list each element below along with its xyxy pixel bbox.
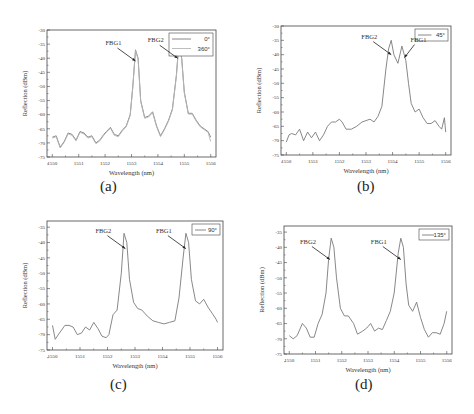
y-axis-label: Reflection (dBm) xyxy=(255,68,263,114)
x-tick-label: 1553 xyxy=(127,161,138,166)
peak-annotation: FBG2 xyxy=(148,36,164,43)
legend-entry: 135° xyxy=(434,232,447,238)
y-tick-label: -60 xyxy=(38,112,45,117)
x-tick-label: 1551 xyxy=(75,354,86,359)
x-axis-label: Wavelength (nm) xyxy=(112,362,157,370)
subfigure-label-b: (b) xyxy=(357,178,375,195)
x-tick-label: 1552 xyxy=(334,159,345,164)
y-tick-label: -75 xyxy=(38,155,45,160)
x-tick-label: 1552 xyxy=(337,358,348,363)
chart-panel-c: -35-40-45-50-55-60-65-70-751550155115521… xyxy=(17,215,229,380)
y-tick-label: -60 xyxy=(275,306,282,311)
chart-panel-b: -30-35-40-45-50-55-60-65-70-751550155115… xyxy=(251,20,457,185)
peak-annotation: FBG1 xyxy=(106,39,122,46)
chart-c: -35-40-45-50-55-60-65-70-751550155115521… xyxy=(17,215,229,376)
x-tick-label: 1554 xyxy=(153,161,164,166)
y-tick-label: -70 xyxy=(38,141,45,146)
x-tick-label: 1553 xyxy=(363,358,374,363)
x-tick-label: 1555 xyxy=(414,159,425,164)
y-tick-label: -30 xyxy=(38,28,45,33)
y-tick-label: -35 xyxy=(275,230,282,235)
x-tick-label: 1554 xyxy=(388,159,399,164)
series-line-135° xyxy=(289,238,446,339)
y-tick-label: -40 xyxy=(38,56,45,61)
y-tick-label: -60 xyxy=(272,110,279,115)
y-tick-label: -45 xyxy=(38,70,45,75)
x-tick-label: 1550 xyxy=(284,358,295,363)
legend: 90° xyxy=(192,224,220,235)
plot-frame xyxy=(281,26,451,155)
y-tick-label: -50 xyxy=(272,81,279,86)
x-tick-label: 1554 xyxy=(158,354,169,359)
y-axis-label: Reflection (dBm) xyxy=(21,71,29,117)
y-tick-label: -40 xyxy=(272,52,279,57)
y-tick-label: -65 xyxy=(38,127,45,132)
legend-entry: 90° xyxy=(208,227,218,233)
y-tick-label: -65 xyxy=(275,321,282,326)
x-tick-label: 1552 xyxy=(103,354,114,359)
x-tick-label: 1550 xyxy=(281,159,292,164)
y-tick-label: -40 xyxy=(38,240,45,245)
y-tick-label: -70 xyxy=(275,337,282,342)
x-tick-label: 1555 xyxy=(179,161,190,166)
y-tick-label: -65 xyxy=(272,124,279,129)
x-tick-label: 1556 xyxy=(442,358,453,363)
series-line-90° xyxy=(53,233,218,339)
y-tick-label: -30 xyxy=(272,24,279,29)
x-tick-label: 1556 xyxy=(441,159,452,164)
x-tick-label: 1550 xyxy=(47,161,58,166)
y-tick-label: -50 xyxy=(38,84,45,89)
peak-annotation: FBG2 xyxy=(361,33,377,40)
y-tick-label: -70 xyxy=(38,332,45,337)
peak-annotation: FBG1 xyxy=(156,227,172,234)
y-axis-label: Reflection (dBm) xyxy=(258,267,266,313)
peak-annotation: FBG2 xyxy=(95,227,111,234)
y-tick-label: -75 xyxy=(272,153,279,158)
chart-a: -30-35-40-45-50-55-60-65-70-751550155115… xyxy=(17,24,222,183)
y-axis-label: Reflection (dBm) xyxy=(21,263,29,309)
x-tick-label: 1556 xyxy=(213,354,224,359)
y-tick-label: -50 xyxy=(38,271,45,276)
y-tick-label: -65 xyxy=(38,317,45,322)
legend: 0°360° xyxy=(169,33,213,56)
peak-annotation: FBG1 xyxy=(371,238,387,245)
x-tick-label: 1551 xyxy=(74,161,85,166)
y-tick-label: -75 xyxy=(38,348,45,353)
x-tick-label: 1553 xyxy=(361,159,372,164)
peak-annotation: FBG1 xyxy=(411,36,427,43)
subfigure-label-d: (d) xyxy=(355,376,373,393)
x-tick-label: 1552 xyxy=(100,161,111,166)
chart-d: -35-40-45-50-55-60-65-70-751550155115521… xyxy=(254,220,458,380)
y-tick-label: -40 xyxy=(275,245,282,250)
y-tick-label: -55 xyxy=(272,95,279,100)
subfigure-label-a: (a) xyxy=(100,178,117,195)
y-tick-label: -35 xyxy=(38,42,45,47)
y-tick-label: -70 xyxy=(272,138,279,143)
peak-annotation: FBG2 xyxy=(300,238,316,245)
chart-panel-a: -30-35-40-45-50-55-60-65-70-751550155115… xyxy=(17,24,222,187)
y-tick-label: -75 xyxy=(275,352,282,357)
y-tick-label: -35 xyxy=(272,38,279,43)
subfigure-label-c: (c) xyxy=(110,376,127,393)
chart-panel-d: -35-40-45-50-55-60-65-70-751550155115521… xyxy=(254,220,458,384)
x-tick-label: 1553 xyxy=(130,354,141,359)
y-tick-label: -55 xyxy=(38,286,45,291)
x-tick-label: 1554 xyxy=(389,358,400,363)
y-tick-label: -45 xyxy=(275,260,282,265)
plot-frame xyxy=(47,221,223,350)
series-line-45° xyxy=(286,40,445,142)
x-tick-label: 1551 xyxy=(308,159,319,164)
y-tick-label: -45 xyxy=(38,256,45,261)
y-tick-label: -50 xyxy=(275,276,282,281)
legend-entry: 360° xyxy=(198,46,211,52)
x-axis-label: Wavelength (nm) xyxy=(345,366,390,374)
y-tick-label: -35 xyxy=(38,225,45,230)
y-tick-label: -55 xyxy=(275,291,282,296)
x-tick-label: 1556 xyxy=(206,161,217,166)
legend: 135° xyxy=(419,229,449,240)
legend-entry: 45° xyxy=(436,32,446,38)
series-line-0° xyxy=(52,41,210,147)
x-tick-label: 1555 xyxy=(416,358,427,363)
x-tick-label: 1551 xyxy=(311,358,322,363)
y-tick-label: -55 xyxy=(38,98,45,103)
